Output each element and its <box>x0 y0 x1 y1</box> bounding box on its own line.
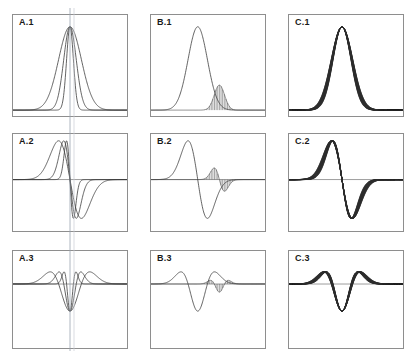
plot-a1 <box>13 15 127 116</box>
panel-label-b1: B.1 <box>157 18 172 27</box>
panel-label-a2: A.2 <box>19 137 34 146</box>
panel-label-a1: A.1 <box>19 18 34 27</box>
panel-label-b2: B.2 <box>157 137 172 146</box>
plot-a2 <box>13 134 127 231</box>
envelope-band-c1 <box>289 27 403 110</box>
panel-label-b3: B.3 <box>157 254 172 263</box>
plot-b1 <box>151 15 265 116</box>
panel-b2[interactable]: B.2 <box>150 133 266 232</box>
panel-label-c3: C.3 <box>295 254 310 263</box>
panel-a3[interactable]: A.3 <box>12 250 128 349</box>
plot-a3 <box>13 251 127 348</box>
plot-c3 <box>289 251 403 348</box>
envelope-band-c3 <box>289 272 403 311</box>
panel-b3[interactable]: B.3 <box>150 250 266 349</box>
panel-c1[interactable]: C.1 <box>288 14 404 117</box>
panel-label-c2: C.2 <box>295 137 310 146</box>
panel-b1[interactable]: B.1 <box>150 14 266 117</box>
plot-c1 <box>289 15 403 116</box>
panel-c3[interactable]: C.3 <box>288 250 404 349</box>
panel-a2[interactable]: A.2 <box>12 133 128 232</box>
plot-b3 <box>151 251 265 348</box>
panel-a1[interactable]: A.1 <box>12 14 128 117</box>
figure-canvas: A.1 B.1 C.1 A.2 B.2 C.2 A.3 B.3 C.3 <box>0 0 415 356</box>
panel-c2[interactable]: C.2 <box>288 133 404 232</box>
panel-label-a3: A.3 <box>19 254 34 263</box>
panel-label-c1: C.1 <box>295 18 310 27</box>
plot-c2 <box>289 134 403 231</box>
plot-b2 <box>151 134 265 231</box>
